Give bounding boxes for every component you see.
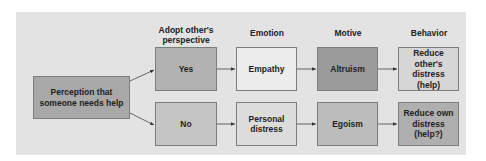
box-perception: Perception that someone needs help (33, 76, 130, 119)
box-motive-altruism: Altruism (317, 47, 378, 91)
box-perception-label: Perception that someone needs help (34, 87, 129, 108)
box-perspective-no: No (155, 102, 217, 146)
box-label: Reduce other's distress (help) (399, 48, 458, 90)
box-label: Empathy (249, 64, 285, 75)
box-label: Altruism (330, 64, 364, 75)
box-label: Reduce own distress (help?) (399, 108, 458, 140)
box-behavior-reduce-others: Reduce other's distress (help) (398, 47, 459, 91)
box-perspective-yes: Yes (155, 47, 217, 91)
box-label: No (180, 119, 191, 130)
box-emotion-personal-distress: Personal distress (236, 102, 297, 146)
box-motive-egoism: Egoism (317, 102, 378, 146)
box-label: Egoism (332, 119, 363, 130)
box-label: Yes (179, 64, 194, 75)
box-label: Personal distress (237, 114, 296, 135)
box-emotion-empathy: Empathy (236, 47, 297, 91)
box-behavior-reduce-own: Reduce own distress (help?) (398, 102, 459, 146)
